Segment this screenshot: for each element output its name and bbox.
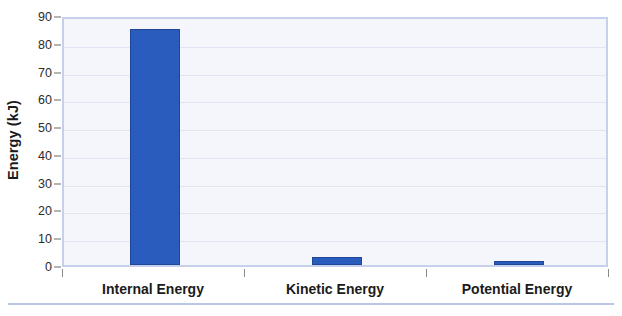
- y-axis-tick-mark: [54, 183, 61, 184]
- x-axis-tick-mark: [62, 269, 63, 277]
- x-axis-category-label: Internal Energy: [102, 281, 204, 297]
- y-axis-tick-label: 70: [26, 66, 52, 80]
- y-axis-tick-label: 30: [26, 177, 52, 191]
- bar: [494, 261, 544, 265]
- y-axis-tick-mark: [54, 128, 61, 129]
- y-axis-tick-label: 60: [26, 93, 52, 107]
- bar: [312, 257, 362, 265]
- y-axis-tick-label: 20: [26, 204, 52, 218]
- x-axis-tick-marks: [0, 269, 622, 279]
- x-axis-tick-mark: [608, 269, 609, 277]
- y-axis-tick-mark: [54, 72, 61, 73]
- y-axis-tick-mark: [54, 155, 61, 156]
- x-axis-category-label: Kinetic Energy: [286, 281, 384, 297]
- bars-layer: [64, 19, 606, 265]
- x-axis-tick-mark: [244, 269, 245, 277]
- y-axis-tick-label: 10: [26, 232, 52, 246]
- plot-area: [62, 17, 608, 267]
- x-axis-tick-mark: [426, 269, 427, 277]
- y-axis-tick-label: 80: [26, 38, 52, 52]
- y-axis-title: Energy (kJ): [0, 0, 26, 280]
- y-axis-tick-mark: [54, 100, 61, 101]
- bar-chart-figure: Energy (kJ) 0102030405060708090 Internal…: [0, 0, 622, 316]
- y-axis-tick-mark: [54, 17, 61, 18]
- y-axis-tick-label: 90: [26, 10, 52, 24]
- y-axis-tick-label: 50: [26, 121, 52, 135]
- y-axis-tick-mark: [54, 239, 61, 240]
- bar: [130, 29, 180, 265]
- x-axis-category-label: Potential Energy: [462, 281, 572, 297]
- bottom-divider-rule: [8, 303, 614, 305]
- y-axis-title-text: Energy (kJ): [5, 100, 21, 180]
- y-axis-tick-mark: [54, 44, 61, 45]
- y-axis-tick-label: 40: [26, 149, 52, 163]
- y-axis-tick-mark: [54, 267, 61, 268]
- x-axis-category-labels: Internal EnergyKinetic EnergyPotential E…: [0, 281, 622, 303]
- y-axis-tick-mark: [54, 211, 61, 212]
